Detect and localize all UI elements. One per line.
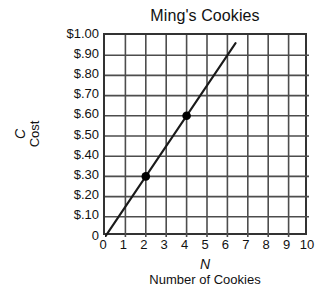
y-axis-tick-label: $.90 [40, 47, 99, 60]
y-axis-variable-symbol: C [14, 129, 27, 139]
x-axis-tick-labels: 012345678910 [103, 238, 307, 254]
y-axis-tick-label: $.30 [40, 168, 99, 181]
data-series [105, 35, 309, 237]
y-axis-tick-labels: $1.00$.90$.80$.70$.60$.50$.40$.30$.20$.1… [40, 33, 99, 235]
y-axis-tick-label: $.40 [40, 148, 99, 161]
trend-line [105, 43, 236, 237]
y-axis-tick-label: $.10 [40, 208, 99, 221]
y-axis-tick-label: $.50 [40, 128, 99, 141]
chart-figure: Ming's Cookies C Cost $1.00$.90$.80$.70$… [0, 0, 328, 298]
data-point-marker [142, 172, 151, 181]
x-axis-variable-symbol: N [103, 256, 307, 272]
x-axis-title: N Number of Cookies [103, 256, 307, 288]
y-axis-tick-label: $1.00 [40, 27, 99, 40]
x-axis-title-text: Number of Cookies [103, 272, 307, 288]
y-axis-tick-label: $.80 [40, 67, 99, 80]
chart-title: Ming's Cookies [103, 6, 307, 26]
y-axis-tick-label: $.70 [40, 87, 99, 100]
y-axis-title-text: Cost [28, 121, 41, 148]
y-axis-tick-label: $.60 [40, 107, 99, 120]
plot-area [103, 33, 307, 235]
y-axis-tick-label: $.20 [40, 188, 99, 201]
data-point-marker [182, 112, 191, 121]
x-axis-tick-label: 10 [292, 238, 322, 252]
